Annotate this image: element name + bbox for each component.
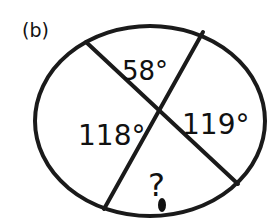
figure-label: (b)	[22, 19, 49, 41]
angle-label-left: 118°	[78, 119, 145, 152]
angle-label-top: 58°	[122, 56, 168, 86]
angle-diagram: (b) 58° 119° 118° ?	[0, 0, 280, 220]
question-mark-dot	[158, 198, 166, 212]
angle-label-right: 119°	[182, 108, 249, 141]
